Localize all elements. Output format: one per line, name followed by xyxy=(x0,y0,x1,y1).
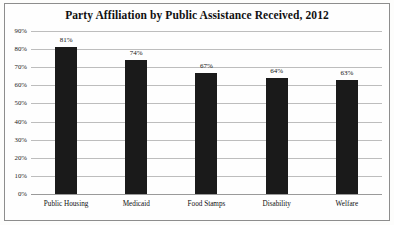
y-axis-tick-label: 0% xyxy=(18,191,27,198)
y-axis-tick-label: 40% xyxy=(15,118,27,125)
y-axis-tick-label: 60% xyxy=(15,82,27,89)
x-axis-category-label: Welfare xyxy=(336,201,359,208)
bar[interactable] xyxy=(195,73,217,194)
bar-group: 64%Disability xyxy=(242,31,312,194)
x-axis-category-label: Public Housing xyxy=(44,201,89,208)
bar-value-label: 63% xyxy=(340,70,353,77)
x-axis-category-label: Food Stamps xyxy=(188,201,226,208)
bar-value-label: 67% xyxy=(200,63,213,70)
bar-value-label: 64% xyxy=(270,68,283,75)
bar-group: 74%Medicaid xyxy=(101,31,171,194)
chart-figure: Party Affiliation by Public Assistance R… xyxy=(0,0,394,225)
y-axis-tick-label: 20% xyxy=(15,154,27,161)
chart-title: Party Affiliation by Public Assistance R… xyxy=(0,9,394,21)
bar-series: 81%Public Housing74%Medicaid67%Food Stam… xyxy=(31,31,382,194)
x-axis-category-label: Medicaid xyxy=(123,201,150,208)
bar-group: 81%Public Housing xyxy=(31,31,101,194)
plot-area: 90%80%70%60%50%40%30%20%10%0% 81%Public … xyxy=(31,31,382,194)
gridline xyxy=(31,194,382,195)
bar-group: 63%Welfare xyxy=(312,31,382,194)
y-axis-tick-label: 30% xyxy=(15,136,27,143)
bar[interactable] xyxy=(266,78,288,194)
bar[interactable] xyxy=(125,60,147,194)
x-axis-category-label: Disability xyxy=(263,201,291,208)
bar-value-label: 81% xyxy=(60,37,73,44)
bar-value-label: 74% xyxy=(130,50,143,57)
y-axis-tick-label: 50% xyxy=(15,100,27,107)
bar[interactable] xyxy=(55,47,77,194)
y-axis-tick-label: 90% xyxy=(15,28,27,35)
y-axis-tick-label: 80% xyxy=(15,46,27,53)
y-axis-tick-label: 70% xyxy=(15,64,27,71)
y-axis-tick-label: 10% xyxy=(15,172,27,179)
bar[interactable] xyxy=(336,80,358,194)
bar-group: 67%Food Stamps xyxy=(171,31,241,194)
